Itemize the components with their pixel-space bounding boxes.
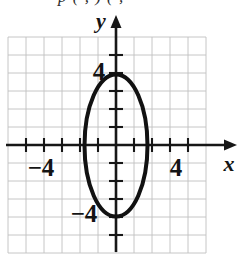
y-tick-label-positive-four: 4 bbox=[93, 58, 106, 85]
x-tick-label-positive-four: 4 bbox=[170, 154, 183, 181]
coordinate-plane-svg: −4 4 4 −4 x y bbox=[0, 0, 243, 255]
x-tick-label-negative-four: −4 bbox=[28, 154, 55, 181]
graph-figure: −4 4 4 −4 x y bbox=[0, 0, 243, 255]
y-tick-label-negative-four: −4 bbox=[71, 200, 98, 227]
x-axis-label: x bbox=[223, 151, 235, 176]
